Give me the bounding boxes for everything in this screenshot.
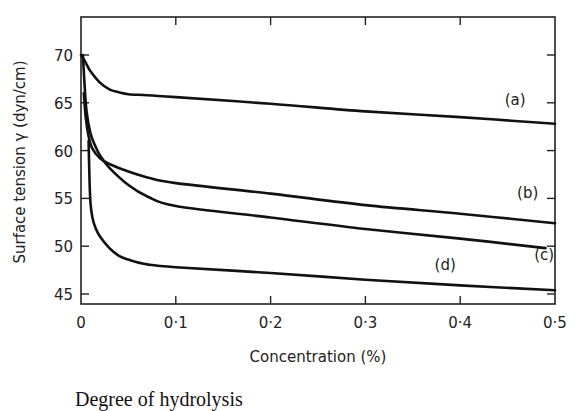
y-tick-label: 50 (54, 238, 73, 256)
y-axis-ticks: 455055606570 (54, 47, 555, 304)
y-tick-label: 65 (54, 95, 73, 113)
curve-label-d: (d) (435, 256, 456, 274)
y-tick-label: 45 (54, 286, 73, 304)
x-tick-label: 0 (76, 314, 86, 332)
x-tick-label: 0·5 (543, 314, 567, 332)
figure-caption-fragment: Degree of hydrolysis (75, 388, 243, 411)
curve-label-a: (a) (505, 91, 526, 109)
x-tick-label: 0·3 (353, 314, 377, 332)
x-tick-label: 0·2 (259, 314, 283, 332)
x-tick-label: 0·4 (448, 314, 472, 332)
y-tick-label: 60 (54, 143, 73, 161)
curve-label-b: (b) (517, 184, 538, 202)
y-tick-label: 70 (54, 47, 73, 65)
y-axis-title: Surface tension γ (dyn/cm) (11, 60, 29, 263)
curve-label-c: (c) (534, 246, 554, 264)
plot-border (81, 17, 555, 304)
x-axis-title: Concentration (%) (250, 348, 387, 366)
curve-b (84, 93, 555, 223)
y-tick-label: 55 (54, 190, 73, 208)
data-curves (81, 55, 555, 290)
x-tick-label: 0·1 (164, 314, 188, 332)
curve-a (81, 55, 555, 124)
x-axis-ticks: 00·10·20·30·40·5 (76, 17, 567, 332)
plot-frame (81, 17, 555, 304)
curve-c (83, 55, 546, 248)
